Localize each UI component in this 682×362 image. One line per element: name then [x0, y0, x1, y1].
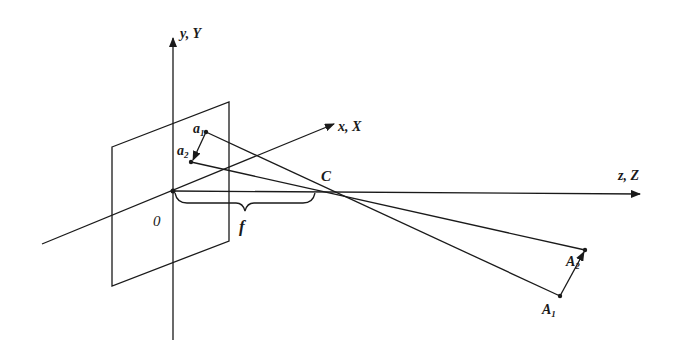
z-axis-label: z, Z [617, 168, 639, 183]
point-a2 [189, 160, 193, 164]
focal-length-label: f [239, 217, 247, 236]
x-axis-label: x, X [337, 119, 362, 134]
a2-label: a2 [177, 143, 189, 160]
y-axis-label: y, Y [178, 26, 202, 41]
a1-label: a1 [193, 121, 205, 138]
A1-label: A1 [541, 302, 556, 319]
image-plane [112, 102, 229, 286]
point-origin [171, 189, 176, 194]
ray-a1-A1 [206, 132, 560, 296]
center-label: C [321, 168, 332, 184]
point-A2 [583, 248, 587, 252]
focal-length-brace [175, 193, 315, 211]
ray-a2-A2 [191, 162, 585, 250]
A2-label: A2 [565, 254, 580, 271]
pinhole-camera-diagram: y, Y x, X z, Z C 0 f a1 a2 A2 A1 [0, 0, 682, 362]
origin-label: 0 [153, 213, 161, 229]
z-axis [173, 191, 640, 194]
point-A1 [558, 294, 562, 298]
